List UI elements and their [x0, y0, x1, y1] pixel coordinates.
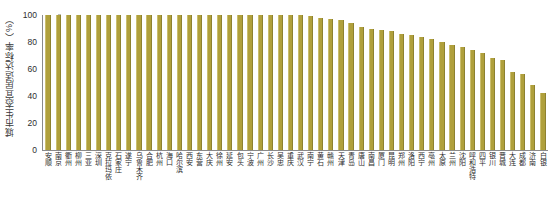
- bar[interactable]: [86, 15, 91, 150]
- bar[interactable]: [490, 58, 495, 150]
- bar[interactable]: [278, 15, 283, 150]
- bar[interactable]: [359, 27, 364, 150]
- x-tick-label: 天津: [337, 152, 344, 166]
- x-tick-label: 延安: [226, 152, 233, 166]
- x-tick-label: 四平: [479, 152, 486, 166]
- bar[interactable]: [157, 15, 162, 150]
- bar-slot: [386, 15, 396, 150]
- bar[interactable]: [207, 15, 212, 150]
- x-tick-label: 徐州: [216, 152, 223, 166]
- bar[interactable]: [288, 15, 293, 150]
- x-tick-label: 吴忠: [277, 152, 284, 166]
- x-tick-label: 洛阳: [408, 152, 415, 166]
- bar[interactable]: [106, 15, 111, 150]
- bar[interactable]: [540, 93, 545, 150]
- bar[interactable]: [66, 15, 71, 150]
- bar[interactable]: [56, 15, 61, 150]
- y-tick-label: 40: [28, 92, 37, 101]
- bar[interactable]: [247, 15, 252, 150]
- bar-slot: [73, 15, 83, 150]
- bar-slot: [316, 15, 326, 150]
- bar[interactable]: [126, 15, 131, 150]
- x-axis-labels: 安顺南京衢州柳州三亚深圳克拉玛依石家庄遂宁乌鲁木齐合肥杭州海口哈尔滨西安东营大庆…: [43, 152, 548, 215]
- bar-slot: [154, 15, 164, 150]
- x-tick-label: 南宁: [307, 152, 314, 166]
- x-tick-label: 南昌: [368, 152, 375, 166]
- bar[interactable]: [480, 53, 485, 150]
- bar-slot: [245, 15, 255, 150]
- x-tick-label: 哈尔滨: [176, 152, 183, 173]
- bar[interactable]: [500, 60, 505, 150]
- x-tick-label: 南京: [55, 152, 62, 166]
- bar[interactable]: [419, 37, 424, 150]
- bar-slot: [205, 15, 215, 150]
- bar-slot: [508, 15, 518, 150]
- x-tick-label: 石家庄: [115, 152, 122, 173]
- bar[interactable]: [530, 85, 535, 150]
- x-tick-label: 沈阳: [459, 152, 466, 166]
- x-tick-label: 大庆: [206, 152, 213, 166]
- bar[interactable]: [328, 19, 333, 150]
- bar[interactable]: [177, 15, 182, 150]
- x-tick-label: 安顺: [45, 152, 52, 166]
- x-tick-label: 黄石: [317, 152, 324, 166]
- bar[interactable]: [298, 15, 303, 150]
- bar[interactable]: [45, 15, 50, 150]
- bar-slot: [447, 15, 457, 150]
- bar-slot: [306, 15, 316, 150]
- bar[interactable]: [308, 16, 313, 150]
- bar[interactable]: [348, 23, 353, 150]
- bar[interactable]: [338, 20, 343, 150]
- bar[interactable]: [460, 47, 465, 150]
- bar[interactable]: [76, 15, 81, 150]
- x-tick-label: 西宁: [418, 152, 425, 166]
- bar-slot: [114, 15, 124, 150]
- bar[interactable]: [399, 34, 404, 150]
- bar-slot: [53, 15, 63, 150]
- x-tick-label: 长沙: [267, 152, 274, 166]
- bar-slot: [518, 15, 528, 150]
- bar[interactable]: [439, 42, 444, 150]
- bar[interactable]: [227, 15, 232, 150]
- bar-slot: [43, 15, 53, 150]
- bar-slot: [195, 15, 205, 150]
- bar[interactable]: [187, 15, 192, 150]
- y-axis-title: 城市生态宜居适达标率（%）: [0, 0, 18, 150]
- bar[interactable]: [379, 30, 384, 150]
- bar[interactable]: [237, 15, 242, 150]
- bar[interactable]: [409, 35, 414, 150]
- bar-slot: [275, 15, 285, 150]
- bar[interactable]: [217, 15, 222, 150]
- bar-slot: [255, 15, 265, 150]
- x-tick-label: 东营: [196, 152, 203, 166]
- x-tick-label: 武汉: [297, 152, 304, 166]
- bar-slot: [63, 15, 73, 150]
- bar[interactable]: [116, 15, 121, 150]
- x-tick-label: 杭州: [156, 152, 163, 166]
- bar[interactable]: [96, 15, 101, 150]
- bar[interactable]: [258, 15, 263, 150]
- bar[interactable]: [146, 15, 151, 150]
- bar[interactable]: [369, 29, 374, 151]
- bar[interactable]: [429, 39, 434, 150]
- bar-slot: [356, 15, 366, 150]
- bar[interactable]: [389, 31, 394, 150]
- bar[interactable]: [197, 15, 202, 150]
- y-tick-label: 80: [28, 38, 37, 47]
- bar-slot: [124, 15, 134, 150]
- bar-slot: [296, 15, 306, 150]
- bar[interactable]: [167, 15, 172, 150]
- bar[interactable]: [510, 72, 515, 150]
- bar-slot: [83, 15, 93, 150]
- bar[interactable]: [268, 15, 273, 150]
- bar[interactable]: [136, 15, 141, 150]
- x-tick-label: 广州: [257, 152, 264, 166]
- bar-slot: [94, 15, 104, 150]
- bar[interactable]: [470, 50, 475, 150]
- bar[interactable]: [449, 45, 454, 150]
- y-axis-title-text: 城市生态宜居适达标率（%）: [5, 14, 14, 137]
- bar-slot: [376, 15, 386, 150]
- bar[interactable]: [318, 18, 323, 150]
- chart-container: 城市生态宜居适达标率（%） 020406080100 安顺南京衢州柳州三亚深圳克…: [0, 0, 552, 215]
- bar[interactable]: [520, 74, 525, 150]
